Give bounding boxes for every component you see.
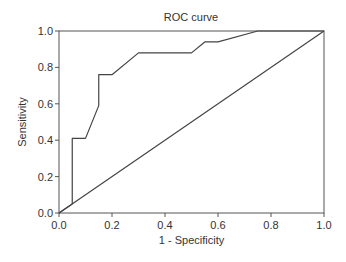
y-tick-label: 0.2 bbox=[38, 171, 53, 183]
y-tick-label: 0.0 bbox=[38, 207, 53, 219]
reference-diagonal-line bbox=[59, 31, 324, 213]
y-tick-label: 1.0 bbox=[38, 25, 53, 37]
y-tick-label: 0.8 bbox=[38, 61, 53, 73]
y-tick-label: 0.4 bbox=[38, 134, 53, 146]
x-tick-label: 0.0 bbox=[51, 219, 66, 231]
roc-chart: 0.00.20.40.60.81.00.00.20.40.60.81.0 bbox=[0, 0, 346, 262]
y-tick-label: 0.6 bbox=[38, 98, 53, 110]
x-tick-label: 0.2 bbox=[104, 219, 119, 231]
x-tick-label: 0.6 bbox=[210, 219, 225, 231]
x-tick-label: 1.0 bbox=[316, 219, 331, 231]
x-tick-label: 0.8 bbox=[263, 219, 278, 231]
x-tick-label: 0.4 bbox=[157, 219, 172, 231]
